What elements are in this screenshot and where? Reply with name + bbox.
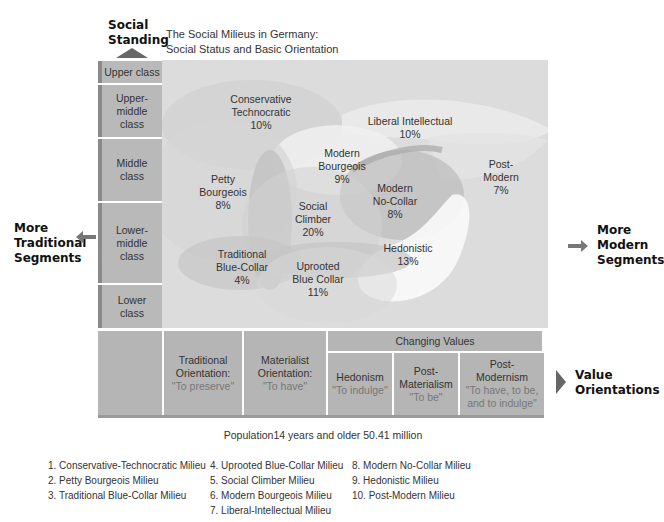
- class-middle: Middleclass: [98, 139, 162, 201]
- orientation-name: Modernism: [476, 371, 528, 384]
- title-line1: The Social Milieus in Germany:: [166, 27, 338, 42]
- class-label-line: Middle: [117, 157, 148, 170]
- milieu-post-modern: Post-Modern7%: [483, 158, 519, 197]
- social-standing-line1: Social: [108, 18, 169, 33]
- social-standing-label: Social Standing: [108, 18, 169, 48]
- milieu-liberal-intellectual: Liberal Intellectual10%: [368, 115, 453, 141]
- milieu-pct: 8%: [199, 199, 246, 212]
- milieu-conservative-technocratic: ConservativeTechnocratic10%: [230, 93, 291, 132]
- orientation-name: Materialist: [261, 354, 309, 367]
- class-upper-middle: Upper-middleclass: [98, 85, 162, 137]
- milieu-name: Blue Collar: [292, 273, 343, 286]
- class-label-line: class: [117, 170, 148, 183]
- legend-item: 10. Post-Modern Milieu: [352, 488, 471, 503]
- legend-item: 9. Hedonistic Milieu: [352, 473, 471, 488]
- orientation-name: Orientation:: [258, 367, 312, 380]
- milieu-map: ConservativeTechnocratic10% Liberal Inte…: [162, 60, 548, 328]
- milieu-pct: 11%: [292, 286, 343, 299]
- milieu-name: Modern: [318, 147, 365, 160]
- right-arrow-icon: [568, 240, 588, 252]
- orientation-quote: and to indulge": [467, 397, 537, 410]
- class-lower-middle: Lower-middleclass: [98, 203, 162, 283]
- up-arrow-icon: [116, 48, 148, 58]
- milieu-name: Social: [295, 200, 331, 213]
- legend-col-3: 8. Modern No-Collar Milieu 9. Hedonistic…: [352, 458, 471, 503]
- milieu-name: Traditional: [216, 248, 268, 261]
- milieu-name: Bourgeois: [318, 160, 365, 173]
- value-orientations-line2: Orientations: [575, 383, 660, 398]
- more-traditional-label: More Traditional Segments: [14, 221, 86, 266]
- orientation-post-materialism: Post- Materialism "To be": [394, 353, 460, 415]
- milieu-hedonistic: Hedonistic13%: [383, 242, 432, 268]
- legend-item: 1. Conservative-Technocratic Milieu: [48, 458, 206, 473]
- milieu-name: Technocratic: [230, 106, 291, 119]
- corner-cell: [98, 331, 164, 415]
- milieu-pct: 13%: [383, 255, 432, 268]
- milieu-pct: 8%: [373, 208, 417, 221]
- orientation-name: Post-: [490, 358, 515, 371]
- milieu-petty-bourgeois: PettyBourgeois8%: [199, 173, 246, 212]
- class-label-line: class: [116, 118, 148, 131]
- milieu-social-climber: SocialClimber20%: [295, 200, 331, 239]
- milieu-pct: 9%: [318, 173, 365, 186]
- right-arrow-line3: Segments: [597, 253, 664, 268]
- class-label-line: Lower: [118, 294, 147, 307]
- orientation-name: Traditional: [179, 354, 228, 367]
- orientation-hedonism: Hedonism "To indulge": [328, 353, 394, 415]
- milieu-pct: 4%: [216, 274, 268, 287]
- milieu-uprooted-blue-collar: UprootedBlue Collar11%: [292, 260, 343, 299]
- legend-item: 6. Modern Bourgeois Milieu: [210, 488, 343, 503]
- class-upper-label: Upper class: [104, 66, 159, 79]
- value-orientations-line1: Value: [575, 368, 660, 383]
- legend-col-2: 4. Uprooted Blue-Collar Milieu 5. Social…: [210, 458, 343, 518]
- orientation-traditional: Traditional Orientation: "To preserve": [164, 331, 244, 415]
- class-label-line: Upper-: [116, 92, 148, 105]
- legend-item: 8. Modern No-Collar Milieu: [352, 458, 471, 473]
- more-modern-label: More Modern Segments: [597, 223, 664, 268]
- milieu-name: Conservative: [230, 93, 291, 106]
- legend-item: 5. Social Climber Milieu: [210, 473, 343, 488]
- changing-values-header: Changing Values: [328, 331, 544, 351]
- orientation-quote: "To be": [409, 391, 442, 404]
- orientation-name: Hedonism: [336, 371, 383, 384]
- orientation-quote: "To preserve": [172, 380, 234, 393]
- class-label-line: middle: [116, 237, 148, 250]
- milieu-traditional-blue-collar: TraditionalBlue-Collar4%: [216, 248, 268, 287]
- class-label-line: class: [116, 250, 148, 263]
- milieu-name: Modern: [483, 171, 519, 184]
- orientation-quote: "To indulge": [332, 384, 387, 397]
- class-lower: Lowerclass: [98, 285, 162, 328]
- changing-values-label: Changing Values: [395, 335, 474, 348]
- social-standing-line2: Standing: [108, 33, 169, 48]
- orientation-quote: "To have": [263, 380, 307, 393]
- legend-item: 3. Traditional Blue-Collar Milieu: [48, 488, 206, 503]
- title-line2: Social Status and Basic Orientation: [166, 42, 338, 57]
- legend-item: 2. Petty Bourgeois Milieu: [48, 473, 206, 488]
- legend-item: 4. Uprooted Blue-Collar Milieu: [210, 458, 343, 473]
- milieu-name: Petty: [199, 173, 246, 186]
- milieu-pct: 10%: [230, 119, 291, 132]
- milieu-name: Modern: [373, 182, 417, 195]
- orientation-name: Post-: [414, 365, 439, 378]
- milieu-name: Bourgeois: [199, 186, 246, 199]
- class-label-line: Lower-: [116, 224, 148, 237]
- right-arrow-line2: Modern: [597, 238, 664, 253]
- milieu-name: Climber: [295, 213, 331, 226]
- milieu-pct: 20%: [295, 226, 331, 239]
- orientation-quote: "To have, to be,: [466, 384, 539, 397]
- milieu-pct: 10%: [368, 128, 453, 141]
- milieu-modern-bourgeois: ModernBourgeois9%: [318, 147, 365, 186]
- milieu-pct: 7%: [483, 184, 519, 197]
- orientation-post-modernism: Post- Modernism "To have, to be, and to …: [460, 353, 544, 415]
- milieu-name: Blue-Collar: [216, 261, 268, 274]
- class-label-line: middle: [116, 105, 148, 118]
- population-note: Population14 years and older 50.41 milli…: [0, 429, 646, 441]
- class-label-line: class: [118, 307, 147, 320]
- right-arrow-line1: More: [597, 223, 664, 238]
- milieu-name: Liberal Intellectual: [368, 115, 453, 128]
- milieu-name: No-Collar: [373, 195, 417, 208]
- class-upper: Upper class: [98, 61, 162, 83]
- milieu-name: Post-: [483, 158, 519, 171]
- milieu-modern-no-collar: ModernNo-Collar8%: [373, 182, 417, 221]
- orientation-name: Orientation:: [176, 367, 230, 380]
